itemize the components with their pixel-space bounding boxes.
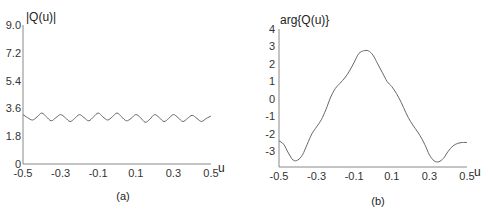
x-axis-label-a: u — [218, 161, 225, 175]
caption-b: (b) — [371, 195, 384, 207]
y-tick-label: 7.2 — [6, 47, 21, 59]
x-tick-label: 0.1 — [128, 167, 143, 179]
y-tick-label: 1.8 — [6, 130, 21, 142]
x-tick-label: 0.5 — [459, 170, 474, 182]
y-tick-label: -1 — [265, 110, 275, 122]
y-tick-label: 2 — [269, 58, 275, 70]
x-tick-label: 0.3 — [422, 170, 437, 182]
y-tick-label: -2 — [265, 128, 275, 140]
y-tick-label: 3.6 — [6, 102, 21, 114]
x-tick-label: 0.3 — [166, 167, 181, 179]
series-line-a — [23, 113, 211, 122]
x-tick-label: -0.1 — [89, 167, 108, 179]
y-axis-label-b: arg{Q(u)} — [280, 13, 329, 27]
x-tick-label: -0.3 — [51, 167, 70, 179]
y-tick-label: 3 — [269, 40, 275, 52]
y-tick-label: 1 — [269, 75, 275, 87]
chart-b: -3-2-101234 -0.5-0.3-0.10.10.30.5 arg{Q(… — [265, 13, 480, 207]
x-axis-label-b: u — [474, 165, 481, 179]
y-tick-label: 4 — [269, 23, 275, 35]
figure: 01.83.65.47.29.0 -0.5-0.3-0.10.10.30.5 |… — [0, 0, 488, 214]
y-axis-label-a: |Q(u)| — [26, 10, 56, 24]
x-tick-label: -0.3 — [307, 170, 326, 182]
caption-a: (a) — [116, 190, 129, 202]
x-tick-label: -0.1 — [345, 170, 364, 182]
y-tick-label: 5.4 — [6, 75, 21, 87]
x-tick-label: 0.1 — [384, 170, 399, 182]
x-tick-label: -0.5 — [270, 170, 289, 182]
series-line-b — [279, 50, 467, 162]
y-tick-label: -3 — [265, 145, 275, 157]
x-tick-label: 0.5 — [203, 167, 218, 179]
y-tick-label: 9.0 — [6, 19, 21, 31]
x-tick-label: -0.5 — [14, 167, 33, 179]
y-tick-label: 0 — [269, 93, 275, 105]
chart-a: 01.83.65.47.29.0 -0.5-0.3-0.10.10.30.5 |… — [6, 10, 225, 202]
